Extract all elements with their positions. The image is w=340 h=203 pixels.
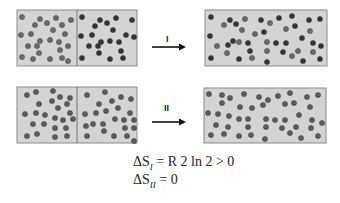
gas-molecule bbox=[308, 125, 313, 130]
gas-molecule bbox=[24, 133, 29, 138]
gas-a-molecule bbox=[19, 54, 24, 59]
gas-molecule bbox=[22, 111, 27, 116]
gas-molecule bbox=[67, 110, 72, 115]
equation-ii-rhs: = 0 bbox=[159, 172, 177, 187]
gas-b-molecule bbox=[131, 34, 136, 39]
gas-molecule bbox=[131, 125, 136, 130]
gas-b-molecule bbox=[227, 17, 232, 22]
gas-molecule bbox=[102, 89, 107, 94]
gas-molecule bbox=[287, 130, 292, 135]
gas-molecule bbox=[287, 90, 292, 95]
gas-molecule bbox=[103, 108, 108, 113]
gas-b-molecule bbox=[79, 14, 84, 19]
gas-molecule bbox=[206, 91, 211, 96]
gas-a-molecule bbox=[30, 56, 35, 61]
gas-a-molecule bbox=[53, 15, 58, 20]
gas-b-molecule bbox=[236, 56, 241, 61]
gas-a-molecule bbox=[65, 58, 70, 63]
gas-b-molecule bbox=[317, 56, 322, 61]
gas-molecule bbox=[33, 110, 38, 115]
gas-b-molecule bbox=[86, 43, 91, 48]
gas-b-molecule bbox=[230, 38, 235, 43]
gas-molecule bbox=[256, 94, 261, 99]
gas-molecule bbox=[279, 125, 284, 130]
gas-b-molecule bbox=[208, 14, 213, 19]
gas-b-molecule bbox=[92, 23, 97, 28]
gas-a-molecule bbox=[68, 17, 73, 22]
gas-b-molecule bbox=[78, 33, 83, 38]
gas-b-molecule bbox=[207, 33, 212, 38]
gas-molecule bbox=[131, 138, 136, 143]
gas-molecule bbox=[63, 125, 68, 130]
gas-molecule bbox=[248, 132, 253, 137]
gas-a-molecule bbox=[19, 14, 24, 19]
gas-molecule bbox=[315, 92, 320, 97]
process-ii-label: II bbox=[164, 103, 169, 113]
delta-s-symbol: ΔS bbox=[133, 154, 150, 169]
delta-s-symbol: ΔS bbox=[133, 172, 150, 187]
gas-molecule bbox=[291, 100, 296, 105]
gas-molecule bbox=[131, 117, 136, 122]
gas-a-molecule bbox=[28, 31, 33, 36]
gas-b-molecule bbox=[97, 17, 102, 22]
gas-b-molecule bbox=[247, 48, 252, 53]
gas-a-molecule bbox=[239, 27, 244, 32]
gas-a-molecule bbox=[47, 56, 52, 61]
gas-molecule bbox=[83, 123, 88, 128]
gas-b-molecule bbox=[79, 55, 84, 60]
gas-molecule bbox=[122, 125, 127, 130]
gas-a-molecule bbox=[57, 47, 62, 52]
gas-a-molecule bbox=[50, 27, 55, 32]
entropy-equation-ii: ΔSII = 0 bbox=[133, 172, 178, 190]
gas-molecule bbox=[245, 124, 250, 129]
gas-molecule bbox=[96, 101, 101, 106]
gas-molecule bbox=[127, 110, 132, 115]
gas-molecule bbox=[241, 91, 246, 96]
gas-a-molecule bbox=[249, 55, 254, 60]
gas-molecule bbox=[315, 133, 320, 138]
gas-b-molecule bbox=[123, 32, 128, 37]
gas-molecule bbox=[213, 122, 218, 127]
gas-molecule bbox=[124, 133, 129, 138]
gas-molecule bbox=[90, 121, 95, 126]
gas-a-molecule bbox=[221, 22, 226, 27]
gas-molecule bbox=[52, 134, 57, 139]
gas-b-molecule bbox=[264, 59, 269, 64]
gas-a-molecule bbox=[47, 37, 52, 42]
gas-b-molecule bbox=[110, 27, 115, 32]
gas-molecule bbox=[50, 88, 55, 93]
gas-b-molecule bbox=[107, 56, 112, 61]
gas-a-molecule bbox=[310, 49, 315, 54]
gas-molecule bbox=[236, 133, 241, 138]
gas-molecule bbox=[100, 121, 105, 126]
gas-molecule bbox=[57, 94, 62, 99]
subscript-i: I bbox=[150, 162, 153, 172]
gas-molecule bbox=[293, 124, 298, 129]
gas-molecule bbox=[115, 105, 120, 110]
gas-a-molecule bbox=[65, 43, 70, 48]
gas-molecule bbox=[34, 131, 39, 136]
process-i-label: I bbox=[166, 34, 169, 44]
gas-molecule bbox=[84, 133, 89, 138]
gas-b-molecule bbox=[208, 55, 213, 60]
gas-a-molecule bbox=[264, 48, 269, 53]
gas-molecule bbox=[111, 133, 116, 138]
gas-b-molecule bbox=[129, 17, 134, 22]
process-ii-after-box bbox=[204, 88, 326, 143]
gas-b-molecule bbox=[245, 40, 250, 45]
gas-b-molecule bbox=[225, 42, 230, 47]
gas-b-molecule bbox=[283, 40, 288, 45]
gas-b-molecule bbox=[292, 23, 297, 28]
process-arrows bbox=[152, 44, 186, 126]
gas-molecule bbox=[41, 121, 46, 126]
gas-molecule bbox=[245, 116, 250, 121]
gas-molecule bbox=[64, 133, 69, 138]
gas-b-molecule bbox=[276, 15, 281, 20]
gas-molecule bbox=[112, 116, 117, 121]
gas-molecule bbox=[82, 111, 87, 116]
gas-b-molecule bbox=[233, 21, 238, 26]
gas-molecule bbox=[237, 104, 242, 109]
gas-b-molecule bbox=[261, 29, 266, 34]
gas-molecule bbox=[219, 92, 224, 97]
gas-molecule bbox=[236, 116, 241, 121]
